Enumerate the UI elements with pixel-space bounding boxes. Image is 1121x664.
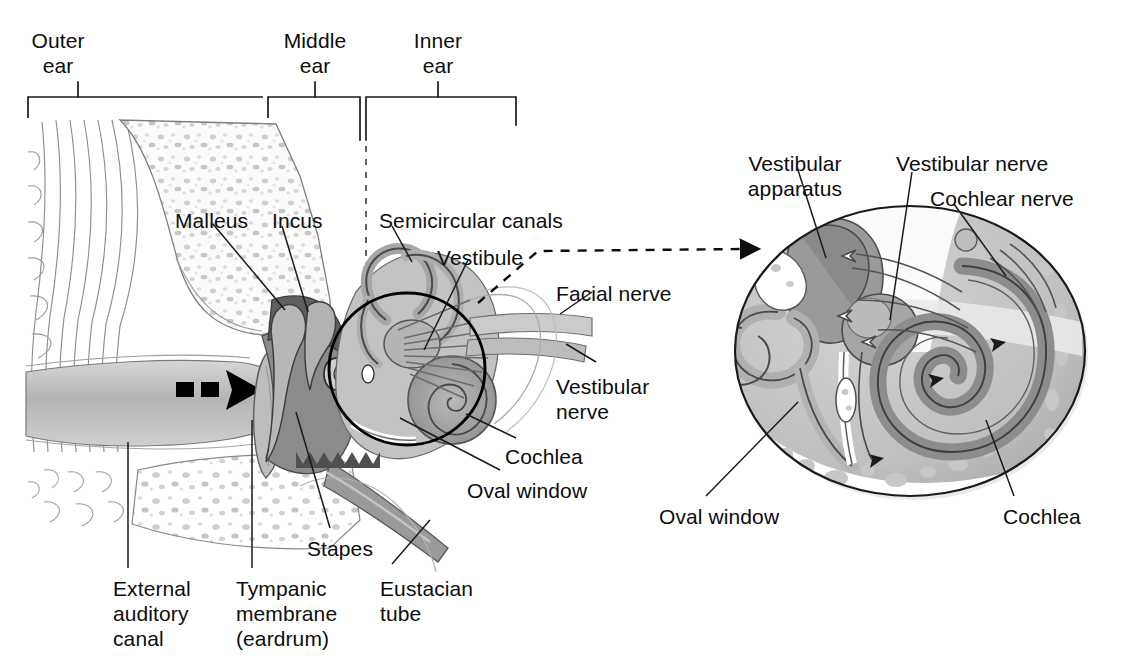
external-auditory-canal: [26, 355, 284, 449]
oval-window-marker: [362, 365, 374, 383]
label-incus: Incus: [272, 208, 323, 233]
label-cochlea: Cochlea: [505, 444, 583, 469]
region-label-outer-ear: Outer ear: [31, 28, 84, 78]
label-tympanic-membrane: Tympanic membrane (eardrum): [236, 576, 337, 651]
label-detail-oval-window: Oval window: [659, 504, 779, 529]
label-malleus: Malleus: [175, 208, 248, 233]
label-external-auditory-canal: External auditory canal: [113, 576, 191, 651]
label-semicircular-canals: Semicircular canals: [379, 208, 563, 233]
ear-anatomy-figure: Outer ear Middle ear Inner ear Malleus I…: [0, 0, 1121, 664]
label-vestibule: Vestibule: [437, 245, 523, 270]
label-detail-cochlea: Cochlea: [1003, 504, 1081, 529]
ear-anatomy-illustration: [0, 0, 1121, 664]
label-facial-nerve: Facial nerve: [556, 281, 672, 306]
label-cochlear-nerve: Cochlear nerve: [930, 186, 1074, 211]
region-label-middle-ear: Middle ear: [284, 28, 346, 78]
label-eustacian-tube: Eustacian tube: [380, 576, 473, 626]
label-detail-vestibular-nerve: Vestibular nerve: [896, 151, 1048, 176]
label-vestibular-nerve: Vestibular nerve: [556, 374, 649, 424]
label-vestibular-apparatus: Vestibular apparatus: [748, 151, 842, 201]
region-label-inner-ear: Inner ear: [414, 28, 462, 78]
label-oval-window: Oval window: [467, 478, 587, 503]
label-stapes: Stapes: [307, 536, 373, 561]
